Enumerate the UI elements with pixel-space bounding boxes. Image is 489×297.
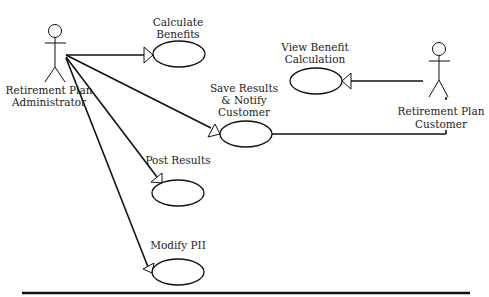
open-triangle-arrow-icon	[208, 124, 220, 137]
open-triangle-arrow-icon	[151, 173, 162, 183]
association-customer-view	[342, 73, 423, 89]
use-case-label-line: Benefits	[156, 28, 200, 40]
use-case-label-line: Calculation	[285, 53, 346, 65]
use-case-label-line: & Notify	[221, 94, 267, 106]
open-triangle-arrow-icon	[144, 47, 153, 63]
use-case-view-benefit-calculation: View Benefit Calculation	[280, 41, 349, 94]
association-admin-modify	[66, 58, 154, 273]
use-case-modify-pii: Modify PII	[150, 239, 206, 285]
stick-figure-icon	[429, 43, 450, 98]
actor-administrator: Retirement Plan Administrator	[6, 25, 93, 109]
use-case-label-line: View Benefit	[280, 41, 349, 53]
use-case-calculate-benefits: Calculate Benefits	[153, 16, 205, 67]
stick-figure-icon	[45, 25, 66, 83]
actor-customer: Retirement Plan Customer	[398, 43, 485, 131]
use-case-diagram: Retirement Plan Administrator Calculate …	[0, 0, 489, 297]
actor-label-line: Administrator	[11, 96, 87, 108]
association-admin-calculate	[66, 47, 153, 63]
use-case-label-line: Save Results	[210, 82, 278, 94]
use-case-label-line: Post Results	[145, 154, 210, 166]
actor-label-line: Customer	[415, 118, 468, 130]
use-case-label-line: Modify PII	[150, 239, 206, 251]
use-case-label-line: Customer	[218, 106, 271, 118]
association-admin-save	[66, 55, 220, 137]
use-case-label-line: Calculate	[153, 16, 203, 28]
actor-label-line: Retirement Plan	[398, 105, 485, 117]
open-triangle-arrow-icon	[342, 73, 351, 89]
use-case-save-results-notify: Save Results & Notify Customer	[210, 82, 278, 147]
